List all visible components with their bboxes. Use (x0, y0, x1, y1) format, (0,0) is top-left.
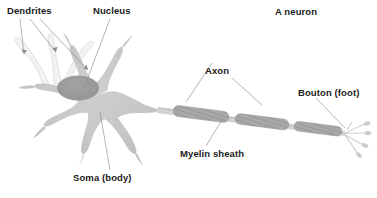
label-myelin-sheath: Myelin sheath (180, 148, 244, 159)
soma-body (18, 32, 160, 167)
bouton-terminals (344, 122, 367, 154)
myelin-sheath-segments (173, 105, 343, 137)
label-soma: Soma (body) (73, 172, 132, 183)
label-axon: Axon (205, 65, 229, 76)
figure-title: A neuron (275, 6, 317, 17)
neuron-illustration (0, 0, 377, 198)
bouton-tips (355, 120, 371, 158)
leader-line-axon-2 (232, 78, 262, 105)
label-dendrites: Dendrites (7, 5, 52, 16)
nucleus-shape (57, 76, 99, 101)
leader-line-bouton (316, 98, 345, 128)
label-nucleus: Nucleus (93, 5, 131, 16)
label-bouton: Bouton (foot) (298, 87, 359, 98)
leader-line-dendrites-3 (40, 19, 88, 70)
neuron-diagram: Dendrites Nucleus A neuron Axon Bouton (… (0, 0, 377, 198)
leader-line-myelin (206, 120, 222, 146)
